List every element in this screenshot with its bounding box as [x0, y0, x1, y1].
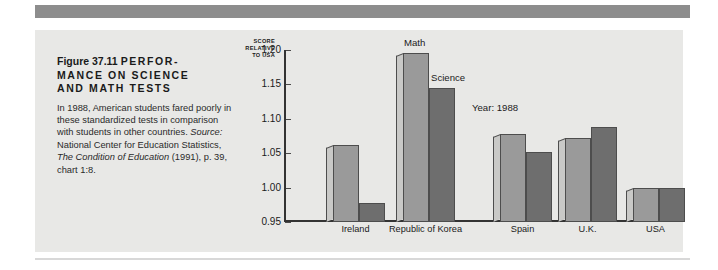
y-tick-label: 1.10 [247, 113, 281, 124]
bar-science [359, 203, 385, 222]
bar-group: USA [626, 30, 685, 222]
bar-science [591, 127, 617, 222]
series-label-math: Math [404, 37, 425, 48]
bar-group: Ireland [326, 30, 385, 222]
bar-side-face [558, 138, 565, 222]
bar-math [565, 138, 591, 222]
figure-page: Figure 37.11 PERFOR- MANCE ON SCIENCE AN… [0, 0, 718, 270]
bottom-rule-decoration [35, 258, 690, 260]
y-tick-mark [285, 222, 291, 223]
y-tick-label: 1.00 [247, 182, 281, 193]
y-tick-label: 0.95 [247, 216, 281, 227]
y-tick-label: 1.15 [247, 78, 281, 89]
bar-science [429, 88, 455, 222]
y-tick-label: 1.05 [247, 147, 281, 158]
year-annotation: Year: 1988 [472, 102, 518, 113]
y-axis-tick-labels: 0.951.001.051.101.151.20 [247, 30, 281, 252]
bar-chart: SCORE RELATIVE TO USA 0.951.001.051.101.… [35, 30, 683, 252]
bar-math [333, 145, 359, 222]
bar-group: U.K. [558, 30, 617, 222]
figure-panel: Figure 37.11 PERFOR- MANCE ON SCIENCE AN… [35, 30, 683, 252]
bar-group: Republic of Korea [396, 30, 455, 222]
bar-science [526, 152, 552, 222]
x-tick-label: USA [598, 224, 713, 234]
bar-math [633, 188, 659, 222]
bar-side-face [626, 188, 633, 222]
bar-side-face [396, 54, 403, 222]
bar-side-face [493, 134, 500, 222]
bar-math [403, 53, 429, 222]
bar-group: Spain [493, 30, 552, 222]
top-rule-decoration [35, 5, 690, 18]
bar-math [500, 134, 526, 222]
bar-side-face [326, 145, 333, 222]
plot-area: IrelandRepublic of KoreaSpainU.K.USA [286, 30, 676, 222]
bar-science [659, 188, 685, 222]
y-tick-label: 1.20 [247, 44, 281, 55]
series-label-science: Science [431, 72, 465, 83]
